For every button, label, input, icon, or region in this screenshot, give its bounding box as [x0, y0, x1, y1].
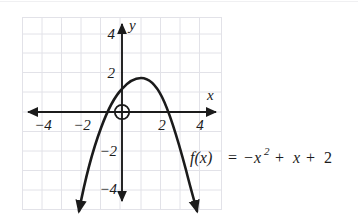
formula-equals: = [228, 149, 237, 166]
formula-term2: x [292, 149, 300, 166]
figure-canvas: x y −4 −2 2 4 4 2 −2 −4 f(x) = − x 2 + x… [0, 0, 358, 215]
y-tick-label: 2 [108, 65, 116, 81]
x-tick-label: −2 [73, 117, 91, 133]
x-tick-label: −4 [34, 117, 52, 133]
graph-figure: x y −4 −2 2 4 4 2 −2 −4 f(x) = − x 2 + x… [0, 0, 358, 215]
formula-lhs: f(x) [190, 149, 212, 167]
formula-term1-exponent: 2 [264, 145, 270, 157]
formula-term1-sign: − [243, 149, 254, 166]
formula-term3: 2 [324, 149, 332, 166]
y-tick-label: −4 [99, 181, 117, 197]
y-axis-label: y [127, 17, 136, 33]
formula-plus-2: + [306, 149, 315, 166]
formula-plus-1: + [275, 149, 284, 166]
y-tick-label: 4 [108, 26, 116, 42]
x-tick-label: 4 [196, 117, 204, 133]
function-formula: f(x) = − x 2 + x + 2 [190, 145, 332, 167]
formula-term1-base: x [253, 149, 261, 166]
y-tick-label: −2 [99, 143, 117, 159]
x-tick-label: 2 [158, 117, 166, 133]
x-axis-label: x [206, 87, 214, 103]
